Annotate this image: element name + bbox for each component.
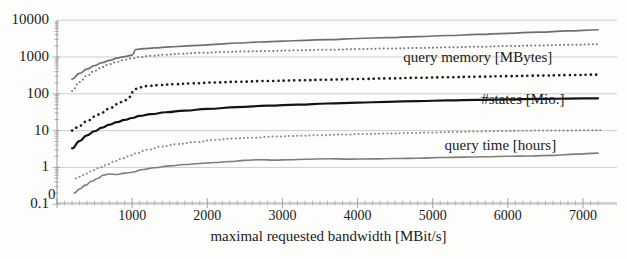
- anno-query-memory: query memory [MBytes]: [403, 50, 552, 65]
- y-tick-label: 10000: [12, 12, 50, 27]
- x-tick-label: 2000: [179, 209, 235, 223]
- x-tick-label: 3000: [254, 209, 310, 223]
- y-tick-label: 1000: [19, 49, 49, 64]
- y-tick-label: 100: [27, 86, 50, 101]
- anno-states: #states [Mio.]: [481, 92, 564, 107]
- anno-query-time: query time [hours]: [445, 138, 557, 153]
- x-tick-label: 1000: [104, 209, 160, 223]
- x-tick-label: 5000: [405, 209, 461, 223]
- x-tick-label: 7000: [555, 209, 611, 223]
- y-tick-label: 0.1: [30, 196, 49, 211]
- x-tick-label: 6000: [480, 209, 536, 223]
- y-tick-label: 1: [42, 159, 50, 174]
- y-tick-label: 10: [34, 123, 49, 138]
- chart-figure: 0.1110100100010000 010002000300040005000…: [0, 0, 627, 259]
- x-tick-label: 4000: [330, 209, 386, 223]
- series-line: [74, 153, 598, 193]
- axis-origin-label: 0: [48, 187, 56, 202]
- x-axis-title: maximal requested bandwidth [MBit/s]: [0, 229, 627, 244]
- y-minor-ticks: [53, 22, 60, 204]
